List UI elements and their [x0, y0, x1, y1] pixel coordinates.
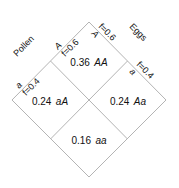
cell-right-genotype: Aa	[134, 96, 146, 107]
cell-left-genotype: aA	[56, 96, 68, 107]
cell-bottom-frequency: 0.16	[71, 135, 90, 146]
cell-left-frequency: 0.24	[32, 96, 51, 107]
cell-left: 0.24 aA	[32, 91, 68, 109]
cell-top-frequency: 0.36	[70, 57, 89, 68]
cell-top: 0.36 AA	[70, 52, 107, 70]
cell-right-frequency: 0.24	[110, 96, 129, 107]
punnett-square-diagram: 0.36 AA 0.24 aA 0.24 Aa 0.16 aa Pollen E…	[0, 0, 179, 188]
cell-top-genotype: AA	[94, 57, 107, 68]
cell-right: 0.24 Aa	[110, 91, 146, 109]
cell-bottom: 0.16 aa	[71, 130, 106, 148]
cell-bottom-genotype: aa	[95, 135, 106, 146]
